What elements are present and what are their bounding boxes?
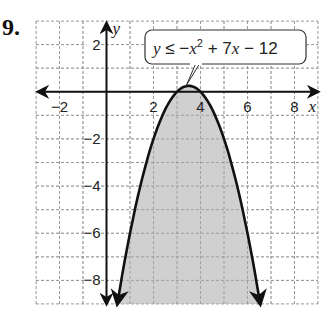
- equation-callout: y ≤ −x2 + 7x − 12: [145, 30, 306, 86]
- x-tick-label: 8: [290, 98, 298, 115]
- y-tick-label: 2: [92, 36, 100, 53]
- y-tick-label: −8: [83, 271, 100, 288]
- x-tick-label: 2: [149, 98, 157, 115]
- y-tick-label: −2: [83, 130, 100, 147]
- x-axis-label: x: [307, 97, 316, 116]
- chart: −224682−2−4−6−8xy y ≤ −x2 + 7x − 12: [0, 0, 331, 318]
- x-tick-label: 4: [196, 98, 204, 115]
- y-tick-label: −4: [83, 177, 100, 194]
- y-tick-label: −6: [83, 224, 100, 241]
- callout-pointer: [186, 63, 200, 86]
- inequality-label: y ≤ −x2 + 7x − 12: [151, 37, 278, 58]
- x-tick-label: −2: [51, 98, 68, 115]
- y-axis-label: y: [111, 19, 121, 38]
- x-tick-label: 6: [243, 98, 251, 115]
